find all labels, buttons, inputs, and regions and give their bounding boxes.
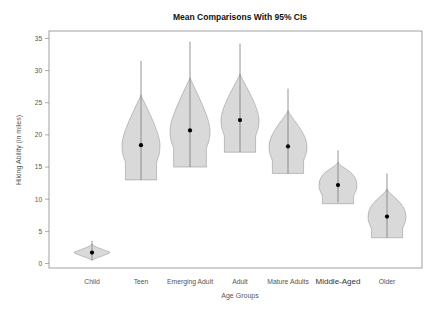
- x-tick-label: Teen: [134, 278, 149, 285]
- mean-dot: [385, 214, 389, 218]
- mean-dot: [90, 250, 94, 254]
- y-tick-label: 25: [35, 99, 43, 106]
- mean-dot: [336, 183, 340, 187]
- chart-title: Mean Comparisons With 95% CIs: [173, 12, 307, 22]
- violin-child: [74, 241, 110, 260]
- violin-chart: Mean Comparisons With 95% CIs 0510152025…: [0, 0, 437, 314]
- mean-dot: [286, 144, 290, 148]
- y-tick-label: 5: [38, 228, 42, 235]
- x-tick-label: Older: [379, 278, 396, 285]
- y-tick-label: 0: [38, 260, 42, 267]
- violin-teen: [122, 61, 160, 180]
- x-axis: ChildTeenEmerging AdultAdultMature Adult…: [84, 277, 396, 286]
- x-tick-label: Child: [84, 278, 100, 285]
- x-tick-label: Mature Adults: [267, 278, 309, 285]
- y-tick-label: 10: [35, 196, 43, 203]
- mean-dot: [139, 143, 143, 147]
- x-tick-label: Emerging Adult: [167, 278, 213, 286]
- x-tick-label: Adult: [232, 278, 248, 285]
- violin-older: [368, 173, 406, 237]
- y-axis-label: Hiking Ability (in miles): [15, 115, 23, 185]
- x-axis-label: Age Groups: [221, 292, 259, 300]
- violins: [74, 42, 406, 261]
- mean-dot: [238, 118, 242, 122]
- y-tick-label: 30: [35, 67, 43, 74]
- y-axis: 05101520253035: [35, 35, 49, 267]
- y-tick-label: 15: [35, 163, 43, 170]
- violin-middle-aged: [319, 150, 357, 203]
- violin-adult: [221, 44, 259, 153]
- x-tick-label: Middle-Aged: [316, 277, 361, 286]
- mean-dot: [188, 128, 192, 132]
- violin-emerging-adult: [170, 42, 210, 167]
- y-tick-label: 35: [35, 35, 43, 42]
- violin-mature-adults: [269, 89, 307, 174]
- y-tick-label: 20: [35, 131, 43, 138]
